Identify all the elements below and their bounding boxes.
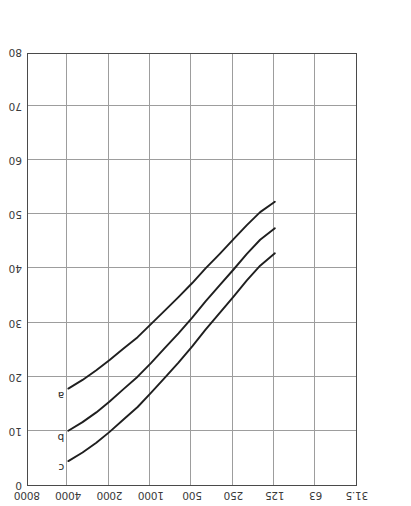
y-tick-label: 40 xyxy=(9,264,22,276)
y-tick-label: 60 xyxy=(9,155,22,167)
y-tick-label: 50 xyxy=(9,209,22,221)
y-tick-label: 30 xyxy=(9,318,22,330)
curve-label-a: a xyxy=(58,390,64,402)
x-tick-label: 31.5 xyxy=(346,490,369,502)
x-tick-label: 1000 xyxy=(138,490,164,502)
curve-label-b: b xyxy=(58,432,65,444)
y-tick-label: 80 xyxy=(9,47,22,59)
curve-b xyxy=(68,228,275,430)
x-tick-label: 4000 xyxy=(55,490,81,502)
y-tick-label: 20 xyxy=(9,372,22,384)
rotated-figure-wrapper: 31.5631252505001000200040008000 01020304… xyxy=(0,0,411,506)
curves-layer xyxy=(27,53,357,486)
y-tick-label: 0 xyxy=(15,480,22,492)
y-tick-label: 70 xyxy=(9,101,22,113)
curve-c xyxy=(68,253,275,461)
curve-label-c: c xyxy=(59,462,65,474)
y-tick-label: 10 xyxy=(9,426,22,438)
curve-a xyxy=(68,202,275,389)
x-tick-label: 250 xyxy=(224,490,243,502)
x-tick-label: 2000 xyxy=(97,490,123,502)
x-tick-label: 125 xyxy=(265,490,284,502)
x-tick-label: 63 xyxy=(309,490,322,502)
chart-figure: 31.5631252505001000200040008000 01020304… xyxy=(0,0,411,506)
x-tick-label: 500 xyxy=(183,490,202,502)
